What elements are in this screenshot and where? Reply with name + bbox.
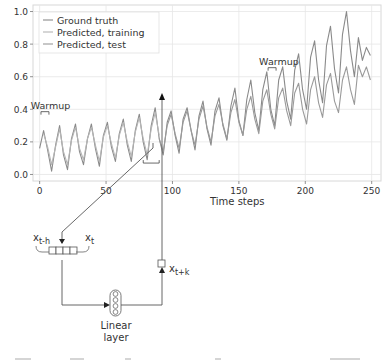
output-cell — [158, 260, 165, 267]
y-axis: 0.00.20.40.60.81.0 — [14, 7, 33, 180]
arrow-head-down-icon — [59, 239, 65, 244]
input-label-last: xt — [85, 232, 94, 246]
brace-right — [76, 246, 89, 252]
input-label-first: xt-h — [33, 232, 50, 246]
input-cell — [49, 247, 56, 254]
legend-label: Predicted, test — [57, 39, 126, 50]
neuron — [113, 310, 118, 315]
figure-canvas: 0.00.20.40.60.81.0 050100150200250 Warmu… — [0, 0, 391, 360]
x-axis-label: Time steps — [209, 196, 265, 207]
y-tick-label: 0.2 — [14, 137, 28, 147]
y-tick-label: 0.4 — [14, 105, 29, 115]
x-tick-label: 100 — [164, 186, 181, 196]
x-tick-label: 200 — [297, 186, 314, 196]
neuron — [113, 304, 118, 309]
input-cell — [70, 247, 77, 254]
neuron — [113, 292, 118, 297]
x-axis: 050100150200250 — [37, 181, 381, 196]
layer-label-line1: Linear — [100, 320, 132, 331]
figure: 0.00.20.40.60.81.0 050100150200250 Warmu… — [0, 0, 391, 360]
input-cell — [63, 247, 70, 254]
neuron — [113, 298, 118, 303]
line-chart: 0.00.20.40.60.81.0 050100150200250 Warmu… — [14, 5, 381, 207]
y-tick-label: 0.6 — [14, 72, 29, 82]
output-label: xt+k — [169, 263, 190, 277]
y-tick-label: 0.8 — [14, 40, 29, 50]
input-vector — [49, 247, 77, 254]
legend-label: Predicted, training — [57, 27, 144, 38]
input-to-layer-connector — [62, 260, 108, 305]
arrow-head-up-icon — [159, 267, 165, 273]
warmup-label: Warmup — [31, 100, 71, 111]
brace-left — [36, 246, 49, 252]
warmup-label: Warmup — [259, 56, 299, 67]
layer-label-line2: layer — [103, 332, 129, 343]
x-tick-label: 250 — [363, 186, 380, 196]
arrow-head-right-icon — [104, 302, 110, 308]
x-tick-label: 0 — [37, 186, 43, 196]
legend: Ground truthPredicted, trainingPredicted… — [39, 12, 159, 53]
layer-to-output-connector — [121, 272, 162, 305]
input-cell — [56, 247, 63, 254]
y-tick-label: 1.0 — [14, 7, 29, 17]
y-tick-label: 0.0 — [14, 170, 29, 180]
x-tick-label: 150 — [230, 186, 247, 196]
legend-label: Ground truth — [57, 15, 118, 26]
